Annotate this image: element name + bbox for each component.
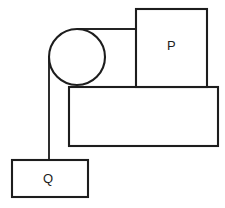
block-q-label: Q [43, 172, 53, 185]
pulley-diagram: P Q [0, 0, 225, 208]
table-surface-block [69, 87, 218, 146]
block-p-label: P [167, 39, 176, 52]
pulley-wheel [49, 29, 105, 85]
diagram-canvas [0, 0, 225, 208]
